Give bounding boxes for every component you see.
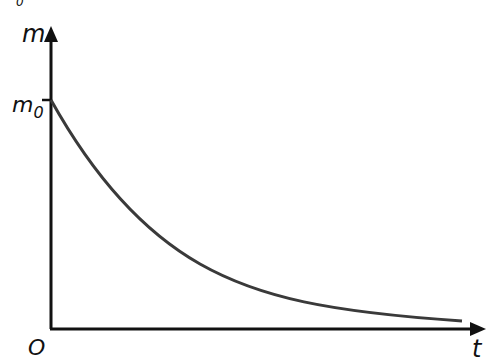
y-axis-arrow-icon xyxy=(44,26,58,42)
m0-label: m0 xyxy=(12,92,44,122)
y-axis-label: m xyxy=(22,20,45,48)
top-fragment-label: 0 xyxy=(16,0,24,9)
origin-label: O xyxy=(28,335,45,360)
x-axis-arrow-icon xyxy=(470,322,486,336)
decay-graph: 0 m m0 O t xyxy=(0,0,488,364)
x-axis-label: t xyxy=(472,335,483,363)
decay-curve xyxy=(51,100,462,321)
